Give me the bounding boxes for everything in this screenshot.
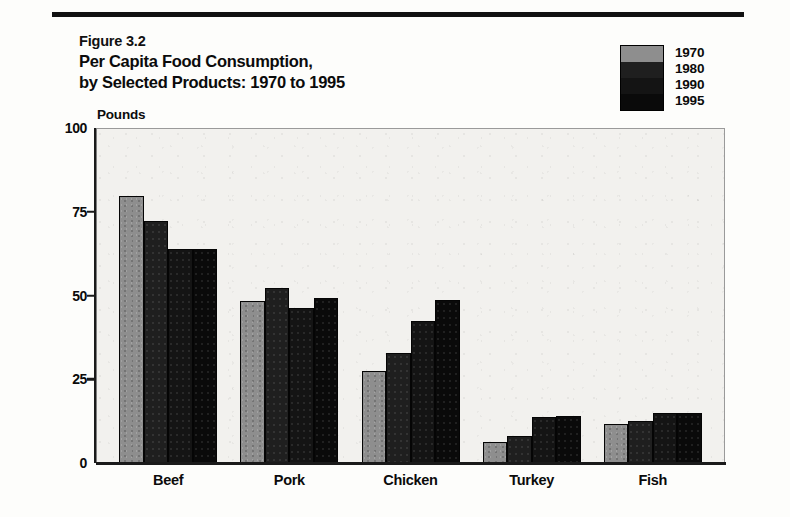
bar-pork-1980 bbox=[265, 288, 290, 463]
bar-beef-1980 bbox=[144, 221, 169, 463]
bar-turkey-1970 bbox=[483, 442, 508, 463]
legend-label-column: 1970198019901995 bbox=[675, 45, 704, 111]
y-axis-unit-label: Pounds bbox=[97, 107, 145, 122]
legend-label-1980: 1980 bbox=[675, 61, 704, 77]
category-label-beef: Beef bbox=[153, 472, 183, 488]
bar-fish-1980 bbox=[628, 421, 653, 463]
legend-label-1995: 1995 bbox=[675, 93, 704, 109]
legend-label-1990: 1990 bbox=[675, 77, 704, 93]
legend-swatch-1970 bbox=[621, 46, 663, 62]
bar-fish-1990 bbox=[653, 413, 678, 463]
bar-group-pork bbox=[240, 128, 338, 463]
legend-swatch-1990 bbox=[621, 78, 663, 94]
category-label-pork: Pork bbox=[274, 472, 305, 488]
bar-chicken-1990 bbox=[411, 321, 436, 463]
y-tick-mark-75 bbox=[87, 211, 96, 214]
bar-group-turkey bbox=[483, 128, 581, 463]
category-label-turkey: Turkey bbox=[509, 472, 554, 488]
figure-number: Figure 3.2 bbox=[79, 32, 539, 51]
figure-page: Figure 3.2 Per Capita Food Consumption, … bbox=[0, 0, 790, 517]
bar-fish-1970 bbox=[604, 424, 629, 463]
bar-group-chicken bbox=[362, 128, 460, 463]
legend-swatch-1980 bbox=[621, 62, 663, 78]
chart-legend: 1970198019901995 bbox=[620, 45, 704, 111]
y-tick-label-50: 50 bbox=[72, 288, 87, 304]
top-divider-rule bbox=[52, 12, 744, 17]
y-tick-label-25: 25 bbox=[72, 371, 87, 387]
y-tick-mark-50 bbox=[87, 294, 96, 297]
bar-group-beef bbox=[119, 128, 217, 463]
y-tick-label-75: 75 bbox=[72, 204, 87, 220]
bar-chicken-1970 bbox=[362, 371, 387, 463]
bar-pork-1995 bbox=[314, 298, 339, 463]
bar-turkey-1990 bbox=[532, 417, 557, 463]
x-axis-baseline bbox=[96, 462, 726, 465]
figure-title-line-1: Per Capita Food Consumption, bbox=[79, 51, 539, 72]
y-tick-label-100: 100 bbox=[65, 120, 87, 136]
bar-beef-1995 bbox=[193, 249, 218, 463]
y-tick-label-0: 0 bbox=[80, 455, 87, 471]
bar-turkey-1995 bbox=[556, 416, 581, 463]
bar-fish-1995 bbox=[677, 413, 702, 463]
bar-turkey-1980 bbox=[507, 436, 532, 463]
y-tick-mark-25 bbox=[87, 378, 96, 381]
category-label-chicken: Chicken bbox=[383, 472, 437, 488]
bar-group-fish bbox=[604, 128, 702, 463]
category-label-fish: Fish bbox=[639, 472, 668, 488]
figure-title-line-2: by Selected Products: 1970 to 1995 bbox=[79, 72, 539, 93]
legend-swatch-column bbox=[620, 45, 664, 111]
plot-area: 0255075100 bbox=[96, 128, 725, 463]
legend-label-1970: 1970 bbox=[675, 45, 704, 61]
legend-swatch-1995 bbox=[621, 94, 663, 110]
bar-beef-1970 bbox=[119, 196, 144, 463]
bar-chicken-1995 bbox=[435, 300, 460, 463]
bar-pork-1970 bbox=[240, 301, 265, 463]
bar-beef-1990 bbox=[168, 249, 193, 463]
bar-pork-1990 bbox=[289, 308, 314, 463]
bar-chicken-1980 bbox=[386, 353, 411, 463]
figure-title-block: Figure 3.2 Per Capita Food Consumption, … bbox=[79, 32, 539, 93]
